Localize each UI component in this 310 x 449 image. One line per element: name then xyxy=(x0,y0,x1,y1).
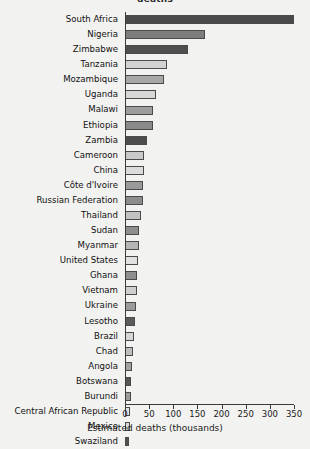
category-label: Myanmar xyxy=(0,238,121,253)
bar xyxy=(125,211,141,220)
x-axis-tick-label: 300 xyxy=(262,409,278,419)
category-label: Côte d'Ivoire xyxy=(0,178,121,193)
bar-row xyxy=(125,374,294,389)
bar xyxy=(125,121,153,130)
bar xyxy=(125,45,188,54)
category-label: Swaziland xyxy=(0,434,121,449)
category-label: Mozambique xyxy=(0,72,121,87)
category-label: South Africa xyxy=(0,12,121,27)
bar xyxy=(125,286,137,295)
category-label: Chad xyxy=(0,344,121,359)
bar-row xyxy=(125,253,294,268)
category-label: Vietnam xyxy=(0,283,121,298)
bar-row xyxy=(125,163,294,178)
bar xyxy=(125,332,134,341)
x-axis-line xyxy=(125,404,294,405)
bar-row xyxy=(125,12,294,27)
bar-row xyxy=(125,102,294,117)
bar xyxy=(125,15,294,24)
category-label: Malawi xyxy=(0,102,121,117)
category-label: Thailand xyxy=(0,208,121,223)
bar-row xyxy=(125,178,294,193)
bar-row xyxy=(125,283,294,298)
bar-row xyxy=(125,344,294,359)
bar xyxy=(125,226,139,235)
bar xyxy=(125,90,156,99)
bar-row xyxy=(125,238,294,253)
category-label: China xyxy=(0,163,121,178)
bar xyxy=(125,317,135,326)
bar xyxy=(125,347,133,356)
bar xyxy=(125,241,139,250)
category-label: Ethiopia xyxy=(0,118,121,133)
bar xyxy=(125,30,205,39)
category-axis-labels: South AfricaNigeriaZimbabweTanzaniaMozam… xyxy=(0,12,121,404)
bar-row xyxy=(125,193,294,208)
bar-row xyxy=(125,133,294,148)
x-axis-tick-label: 150 xyxy=(189,409,205,419)
bar-row xyxy=(125,118,294,133)
bar-row xyxy=(125,298,294,313)
category-label: Tanzania xyxy=(0,57,121,72)
x-axis-tick-label: 250 xyxy=(238,409,254,419)
bar-row xyxy=(125,72,294,87)
category-label: Lesotho xyxy=(0,314,121,329)
x-axis-tick-label: 100 xyxy=(165,409,181,419)
bar-rows xyxy=(125,12,294,404)
category-label: Angola xyxy=(0,359,121,374)
x-axis-tick-label: 350 xyxy=(286,409,302,419)
category-label: Zimbabwe xyxy=(0,42,121,57)
category-label: Botswana xyxy=(0,374,121,389)
bar-row xyxy=(125,87,294,102)
bar xyxy=(125,60,167,69)
x-axis-tick-label: 200 xyxy=(213,409,229,419)
category-label: Uganda xyxy=(0,87,121,102)
bar-row xyxy=(125,208,294,223)
category-label: Russian Federation xyxy=(0,193,121,208)
bar-row xyxy=(125,57,294,72)
category-label: Ukraine xyxy=(0,298,121,313)
bar-row xyxy=(125,148,294,163)
x-axis-tick-label: 50 xyxy=(144,409,155,419)
bar xyxy=(125,106,153,115)
category-label: Burundi xyxy=(0,389,121,404)
category-label: Sudan xyxy=(0,223,121,238)
y-axis-line xyxy=(125,12,126,404)
category-label: Brazil xyxy=(0,329,121,344)
bar xyxy=(125,362,132,371)
bar xyxy=(125,302,136,311)
bar-row xyxy=(125,359,294,374)
bar-row xyxy=(125,223,294,238)
category-label: United States xyxy=(0,253,121,268)
bar-row xyxy=(125,314,294,329)
category-label: Cameroon xyxy=(0,148,121,163)
bar xyxy=(125,256,138,265)
bar xyxy=(125,166,144,175)
bar xyxy=(125,136,147,145)
x-axis-tick-label: 0 xyxy=(122,409,127,419)
bar-row xyxy=(125,42,294,57)
bar xyxy=(125,196,143,205)
category-label: Central African Republic xyxy=(0,404,121,419)
bar-row xyxy=(125,268,294,283)
category-label: Zambia xyxy=(0,133,121,148)
bar-row xyxy=(125,389,294,404)
category-label: Nigeria xyxy=(0,27,121,42)
category-label: Ghana xyxy=(0,268,121,283)
x-axis-title: Estimated deaths (thousands) xyxy=(0,423,310,433)
bar-row xyxy=(125,27,294,42)
bar xyxy=(125,151,144,160)
chart-title: deaths xyxy=(0,0,310,3)
bar xyxy=(125,271,137,280)
bar xyxy=(125,181,143,190)
bar-row xyxy=(125,434,294,449)
bar xyxy=(125,75,164,84)
bar xyxy=(125,437,129,446)
plot-area xyxy=(125,12,294,404)
bar-row xyxy=(125,329,294,344)
